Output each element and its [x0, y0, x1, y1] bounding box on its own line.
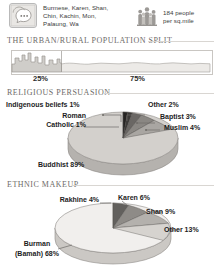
religion-label-indigenous: Indigenous beliefs 1% — [6, 100, 80, 109]
ethnic-label-burman-line1: Burman — [6, 239, 68, 248]
section-rule-ethnic — [72, 185, 214, 186]
fact-languages: Burmese, Karen, Shan, Chin, Kachin, Mon,… — [9, 3, 108, 29]
ethnic-pie-chart: Rakhine 4% Karen 6% Shan 9% Other 13% Bu… — [0, 190, 222, 274]
religion-label-catholic: Catholic 1% — [0, 120, 86, 129]
ethnic-label-rakhine: Rakhine 4% — [0, 195, 99, 204]
section-rule-urban-rural — [148, 41, 214, 42]
religion-label-baptist: Baptist 3% — [160, 112, 196, 121]
ethnic-label-shan: Shan 9% — [146, 207, 175, 216]
urban-percent-label: 25% — [33, 74, 48, 83]
ethnic-label-burman-line2: (Bamah) 68% — [2, 249, 72, 258]
section-rule-religion — [104, 93, 214, 94]
urban-rural-labels: 25% 75% — [0, 74, 222, 86]
fact-languages-text: Burmese, Karen, Shan, Chin, Kachin, Mon,… — [37, 3, 108, 29]
fact-population-density-text: 184 people per sq.mile — [158, 5, 194, 25]
ethnic-label-karen: Karen 6% — [118, 193, 150, 202]
crowd-people-icon — [136, 5, 158, 27]
section-heading-ethnic: Ethnic Makeup — [7, 180, 79, 189]
infographic-page: Burmese, Karen, Shan, Chin, Kachin, Mon,… — [0, 0, 222, 274]
ethnic-label-other: Other 13% — [164, 225, 199, 234]
religion-label-roman: Roman — [0, 111, 86, 120]
speech-languages-icon — [9, 3, 37, 28]
fact-population-density: 184 people per sq.mile — [136, 5, 194, 27]
urban-rural-band — [11, 50, 213, 75]
religion-label-other: Other 2% — [148, 100, 179, 109]
religion-label-buddhist: Buddhist 89% — [38, 160, 84, 169]
key-facts-row: Burmese, Karen, Shan, Chin, Kachin, Mon,… — [0, 0, 222, 33]
rural-percent-label: 75% — [130, 74, 145, 83]
religion-pie-chart: Indigenous beliefs 1% Roman Catholic 1% … — [0, 96, 222, 176]
religion-label-muslim: Muslim 4% — [164, 123, 200, 132]
